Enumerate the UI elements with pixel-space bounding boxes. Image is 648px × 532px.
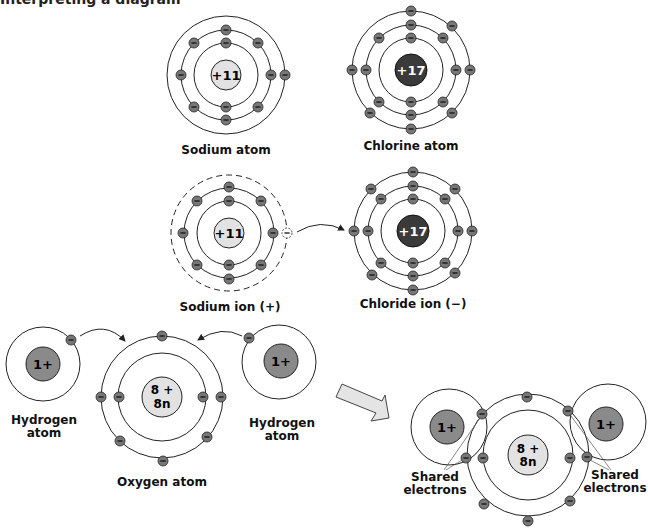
water-molecule: 1+ 1+ 8 + 8n: [411, 384, 646, 526]
sodium-atom: +11: [167, 16, 290, 134]
sodium-ion: +11: [171, 175, 344, 291]
svg-text:8 +: 8 +: [151, 383, 174, 397]
chloride-ion-label: Chloride ion (−): [353, 298, 473, 311]
hydrogen-right-label: Hydrogen atom: [242, 417, 322, 443]
hydrogen-right-label-line2: atom: [242, 430, 322, 443]
svg-text:1+: 1+: [271, 354, 291, 369]
svg-text:+11: +11: [215, 226, 244, 241]
oxygen-atom-label: Oxygen atom: [112, 476, 212, 489]
oxygen-atom: 8 + 8n: [96, 331, 226, 466]
sodium-atom-label: Sodium atom: [176, 144, 276, 157]
svg-text:8n: 8n: [154, 397, 171, 411]
shared-right-line2: electrons: [582, 482, 648, 495]
hydrogen-atom-left: 1+: [6, 327, 125, 401]
svg-text:+17: +17: [399, 224, 428, 239]
chlorine-atom: +17: [347, 6, 475, 134]
hydrogen-left-label-line2: atom: [0, 427, 88, 440]
sodium-ion-label: Sodium ion (+): [170, 301, 290, 314]
atom-diagram: +11 +17 +11: [0, 0, 648, 532]
shared-electrons-left-label: Shared electrons: [400, 471, 470, 497]
chlorine-atom-label: Chlorine atom: [356, 140, 466, 153]
hydrogen-atom-right: 1+: [198, 325, 316, 399]
hydrogen-left-label: Hydrogen atom: [0, 414, 88, 440]
svg-text:1+: 1+: [33, 357, 53, 372]
svg-text:8 +: 8 +: [517, 442, 540, 456]
svg-text:8n: 8n: [520, 455, 537, 469]
svg-text:1+: 1+: [596, 417, 616, 432]
shared-electrons-right-label: Shared electrons: [582, 469, 648, 495]
reaction-arrow: [336, 384, 389, 421]
chloride-ion: +17: [349, 167, 477, 295]
svg-text:+17: +17: [397, 63, 426, 78]
shared-left-line2: electrons: [400, 484, 470, 497]
svg-text:+11: +11: [212, 68, 241, 83]
svg-text:1+: 1+: [437, 420, 457, 435]
